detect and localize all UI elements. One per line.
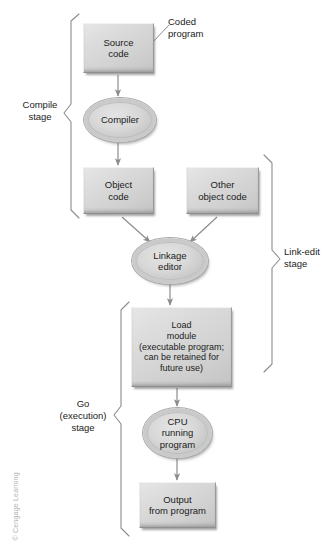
node-compiler-label: Compiler xyxy=(88,114,152,125)
node-output[interactable]: Output from program xyxy=(139,482,216,528)
node-object-code-label: Object code xyxy=(84,179,153,201)
copyright-credit: © Cengage Learning xyxy=(12,467,19,541)
node-load-module-label: Load module (executable program; can be … xyxy=(132,320,231,373)
brace-link-edit-stage xyxy=(264,155,280,372)
node-other-object-code[interactable]: Other object code xyxy=(186,167,259,214)
annotation-coded-program: Coded program xyxy=(168,16,230,40)
stage-label-go: Go (execution) stage xyxy=(54,398,112,434)
flow-other-object-code-to-linkage-editor xyxy=(190,217,217,242)
node-cpu-running[interactable]: CPU running program xyxy=(143,408,212,458)
node-compiler[interactable]: Compiler xyxy=(84,98,156,142)
stage-label-link-edit: Link-edit stage xyxy=(284,246,334,270)
node-cpu-running-label: CPU running program xyxy=(147,416,208,450)
brace-go-stage xyxy=(114,302,129,536)
node-load-module[interactable]: Load module (executable program; can be … xyxy=(131,307,232,387)
node-linkage-editor-label: Linkage editor xyxy=(136,250,204,272)
node-source-code-label: Source code xyxy=(84,37,153,59)
program-stages-diagram: Source code Compiler Object code Other o… xyxy=(0,0,334,553)
node-other-object-code-label: Other object code xyxy=(187,179,258,201)
brace-compile-stage xyxy=(64,14,79,218)
flow-object-code-to-linkage-editor xyxy=(122,217,150,242)
node-source-code[interactable]: Source code xyxy=(83,23,154,73)
node-object-code[interactable]: Object code xyxy=(83,167,154,214)
node-linkage-editor[interactable]: Linkage editor xyxy=(132,238,208,284)
node-output-label: Output from program xyxy=(140,494,215,516)
stage-label-compile: Compile stage xyxy=(16,99,64,123)
